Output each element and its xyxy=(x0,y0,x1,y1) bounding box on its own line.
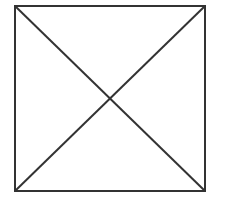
square-with-diagonals-diagram xyxy=(0,0,225,208)
diagram-canvas xyxy=(0,0,225,208)
